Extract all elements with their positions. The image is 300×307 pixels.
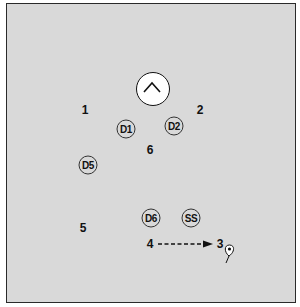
dashed-arrow: [158, 241, 213, 248]
movement-overlay: [0, 0, 300, 307]
ball-marker-icon: [225, 245, 233, 263]
